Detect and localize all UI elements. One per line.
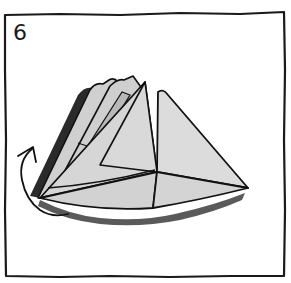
front-right-face	[157, 91, 248, 188]
instruction-panel: 6	[0, 0, 291, 283]
origami-diagram	[0, 0, 291, 283]
step-number: 6	[13, 22, 27, 44]
